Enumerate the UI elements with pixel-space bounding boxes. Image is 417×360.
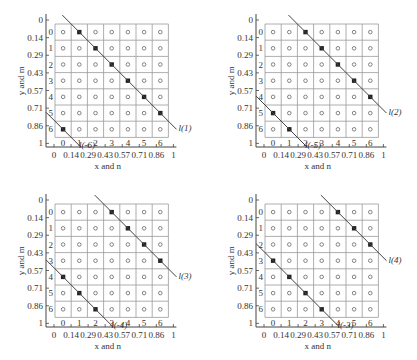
m-index-label: 5 [49,288,54,298]
main-line-label: l(3) [179,271,192,281]
lattice-point [126,259,130,263]
x-tick-label: 0.29 [290,330,306,340]
n-index-label: 0 [61,318,66,328]
lattice-point [320,259,324,263]
lattice-point [352,259,356,263]
m-index-label: 4 [49,272,54,282]
lattice-point [142,63,146,67]
lattice-point [336,79,340,83]
lattice-point [304,79,308,83]
lattice-point [288,111,292,115]
lattice-point [78,275,82,279]
lattice-point [288,243,292,247]
lattice-point [159,291,163,295]
lattice-point [78,308,82,312]
m-index-label: 6 [49,124,54,134]
lattice-point [369,30,373,34]
n-index-label: 0 [61,138,66,148]
y-tick-label: 0 [39,15,44,25]
lattice-point [271,210,275,214]
y-tick-label: 0.14 [237,213,253,223]
lattice-point [352,291,356,295]
lattice-point [271,47,275,51]
lattice-point [78,243,82,247]
lattice-plot: 00.140.290.430.570.710.86100.140.290.430… [210,180,417,360]
lattice-point [159,308,163,312]
lattice-plot: 00.140.290.430.570.710.86100.140.290.430… [0,0,208,180]
lattice-point [61,63,65,67]
lattice-point [336,227,340,231]
y-axis-title: y and m [16,66,26,95]
lattice-point [369,128,373,132]
lattice-point [61,243,65,247]
y-tick-label: 0.71 [27,103,43,113]
m-index-label: 2 [49,60,54,70]
n-index-label: 1 [287,138,292,148]
y-tick-label: 0.43 [27,68,43,78]
m-index-label: 3 [49,76,54,86]
lattice-point [159,275,163,279]
lattice-point [271,128,275,132]
y-tick-label: 0.43 [27,248,43,258]
lattice-point [126,210,130,214]
lattice-point [110,227,114,231]
lattice-plot: 00.140.290.430.570.710.86100.140.290.430… [210,0,417,180]
lattice-point [320,79,324,83]
lattice-point [336,128,340,132]
lattice-point [320,30,324,34]
x-tick-label: 0.29 [290,150,306,160]
lattice-point [61,111,65,115]
m-index-label: 0 [49,27,54,37]
y-tick-label: 0.57 [27,266,43,276]
lattice-point [271,275,275,279]
x-tick-label: 0.14 [63,330,79,340]
lattice-point [110,30,114,34]
lattice-point [336,95,340,99]
wrap-line-label: l(-5) [305,140,321,150]
lattice-point [336,291,340,295]
panel-l2: 00.140.290.430.570.710.86100.140.290.430… [210,0,417,180]
n-index-label: 6 [368,138,373,148]
lattice-point [320,128,324,132]
lattice-point [126,128,130,132]
x-tick-label: 1 [171,330,176,340]
m-index-label: 4 [49,92,54,102]
x-tick-label: 0.57 [324,150,340,160]
lattice-point [304,128,308,132]
lattice-point [271,30,275,34]
lattice-point [126,308,130,312]
m-index-label: 1 [259,43,264,53]
lattice-point [126,291,130,295]
lattice-point [78,259,82,263]
x-tick-label: 0.86 [148,330,164,340]
lattice-point [304,111,308,115]
lattice-point [94,227,98,231]
lattice-point [159,95,163,99]
lattice-point [159,30,163,34]
lattice-point [369,275,373,279]
lattice-point [369,259,373,263]
y-tick-label: 0.14 [237,33,253,43]
lattice-point [61,30,65,34]
m-index-label: 6 [259,124,264,134]
y-tick-label: 0.71 [237,103,253,113]
n-index-label: 4 [126,138,131,148]
x-tick-label: 0.43 [97,330,113,340]
m-index-label: 3 [259,256,264,266]
panel-l3: 00.140.290.430.570.710.86100.140.290.430… [0,180,208,360]
lattice-point [336,111,340,115]
lattice-point [94,291,98,295]
lattice-point [304,95,308,99]
lattice-point [126,275,130,279]
lattice-point [352,210,356,214]
lattice-point [304,259,308,263]
x-tick-label: 0.86 [148,150,164,160]
lattice-point [94,243,98,247]
y-tick-label: 0.86 [237,121,253,131]
lattice-point [110,291,114,295]
lattice-point [369,308,373,312]
y-tick-label: 0.86 [237,301,253,311]
lattice-plot: 00.140.290.430.570.710.86100.140.290.430… [0,180,208,360]
lattice-point [288,210,292,214]
lattice-point [110,259,114,263]
